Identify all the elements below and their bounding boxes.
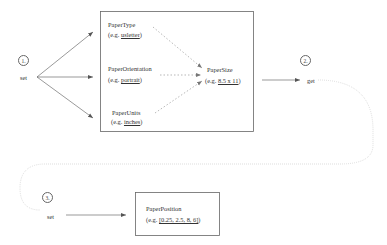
paperorientation-label: PaperOrientation [108,65,152,72]
step-1-badge: 1. [18,55,29,66]
papersize-label: PaperSize [207,66,233,73]
paper-position-box [136,193,220,236]
papersize-example: (e.g. 8.5 x 11) [205,77,241,84]
paperposition-value: [0.25, 2.5, 8, 6] [159,216,198,223]
arrow-to-papertype [37,32,93,77]
paperposition-example: (e.g. [0.25, 2.5, 8, 6]) [146,216,201,223]
papertype-example: (e.g. usletter) [108,31,142,38]
diagram-canvas [0,0,387,245]
paperorientation-value: portrait [121,76,140,83]
step-3-action: set [47,213,54,220]
step-3-badge: 3. [42,192,53,203]
papersize-value: 8.5 x 11 [218,77,239,84]
paperunits-example: (e.g. inches) [111,118,142,125]
dashed-arrow-type-to-size [153,27,202,68]
paperorientation-example: (e.g. portrait) [108,76,142,83]
dashed-arrow-units-to-size [155,81,202,113]
paperposition-label: PaperPosition [146,205,182,212]
papertype-value: usletter [121,31,140,38]
paperunits-label: PaperUnits [112,109,140,116]
arrow-to-paperunits [37,77,93,118]
step-1-action: set [20,74,27,81]
step-2-action: get [307,77,315,84]
dotted-flow-connector [20,80,373,210]
paperunits-value: inches [124,118,140,125]
papertype-label: PaperType [108,21,135,28]
step-2-badge: 2. [300,55,311,66]
